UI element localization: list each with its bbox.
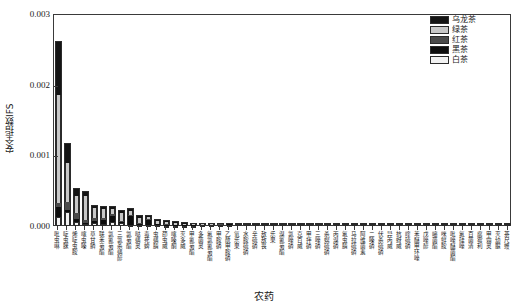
bar-33[interactable]: [351, 223, 358, 225]
y-axis-tick-labels: 0.0000.0010.0020.003: [8, 0, 50, 308]
bar-5[interactable]: [100, 206, 107, 225]
x-tick-label: 甲霜灵: [486, 231, 492, 249]
x-tick-mark: [192, 226, 193, 230]
x-tick-label: 克百威: [297, 231, 303, 249]
x-tick-mark: [345, 226, 346, 230]
bar-41[interactable]: [423, 223, 430, 225]
bar-22[interactable]: [252, 223, 259, 225]
bar-29[interactable]: [315, 223, 322, 225]
bar-1[interactable]: [64, 143, 71, 225]
legend-item-黑茶[interactable]: 黑茶: [430, 45, 476, 54]
bar-segment-黑茶: [128, 216, 133, 225]
bar-9[interactable]: [136, 215, 143, 225]
legend-item-红茶[interactable]: 红茶: [430, 35, 476, 44]
bar-4[interactable]: [91, 205, 98, 225]
x-tick-label: 茚虫威: [162, 231, 168, 249]
legend-item-绿茶[interactable]: 绿茶: [430, 25, 476, 34]
x-tick-mark: [183, 226, 184, 230]
bar-47[interactable]: [477, 223, 484, 225]
x-tick-mark: [255, 226, 256, 230]
x-tick-label: 三氯杀螨醇: [117, 231, 123, 261]
bar-36[interactable]: [378, 223, 385, 225]
x-tick-mark: [309, 226, 310, 230]
y-tick-mark: [54, 156, 58, 157]
bar-stack: [119, 211, 124, 226]
bar-32[interactable]: [342, 223, 349, 225]
bar-50[interactable]: [504, 223, 511, 225]
x-tick-label: 灭幼脲: [495, 231, 501, 249]
bar-2[interactable]: [73, 188, 80, 225]
legend-item-白茶[interactable]: 白茶: [430, 55, 476, 64]
x-tick-label: 苯醚甲环唑: [414, 231, 420, 261]
bar-24[interactable]: [270, 223, 277, 225]
bar-39[interactable]: [405, 223, 412, 225]
x-tick-label: 咪鲜胺: [441, 231, 447, 249]
bar-stack: [83, 192, 88, 226]
bar-stack: [101, 207, 106, 226]
bar-23[interactable]: [261, 223, 268, 225]
bar-7[interactable]: [118, 210, 125, 225]
x-tick-label: 甲拌磷: [306, 231, 312, 249]
bar-44[interactable]: [450, 223, 457, 225]
bar-17[interactable]: [208, 223, 215, 225]
bar-34[interactable]: [360, 223, 367, 225]
legend-swatch: [430, 26, 449, 34]
bar-31[interactable]: [333, 223, 340, 225]
bar-15[interactable]: [190, 223, 197, 225]
bar-28[interactable]: [306, 223, 313, 225]
bar-14[interactable]: [181, 222, 188, 225]
bar-16[interactable]: [199, 223, 206, 225]
x-tick-mark: [120, 226, 121, 230]
bar-48[interactable]: [486, 223, 493, 225]
bar-30[interactable]: [324, 223, 331, 225]
bar-38[interactable]: [396, 223, 403, 225]
x-tick-label: 氯菊酯: [126, 231, 132, 249]
bar-stack: [65, 144, 70, 226]
bar-42[interactable]: [432, 223, 439, 225]
bar-49[interactable]: [495, 223, 502, 225]
x-tick-label: 乐果: [270, 231, 276, 243]
bar-45[interactable]: [459, 223, 466, 225]
bar-27[interactable]: [297, 223, 304, 225]
y-tick-label: 0.003: [10, 10, 50, 19]
x-tick-label: 噻虫嗪: [81, 231, 87, 249]
bar-21[interactable]: [243, 223, 250, 225]
bar-20[interactable]: [235, 223, 242, 225]
x-tick-mark: [273, 226, 274, 230]
bar-10[interactable]: [145, 215, 152, 225]
bar-25[interactable]: [279, 223, 286, 225]
bar-46[interactable]: [468, 223, 475, 225]
x-tick-mark: [417, 226, 418, 230]
bar-segment-乌龙茶: [65, 144, 70, 163]
bar-43[interactable]: [441, 223, 448, 225]
x-tick-label: 乙酰甲胺磷: [225, 231, 231, 261]
x-tick-mark: [480, 226, 481, 230]
x-tick-mark: [381, 226, 382, 230]
x-tick-mark: [318, 226, 319, 230]
y-tick-label: 0.001: [10, 151, 50, 160]
x-tick-mark: [228, 226, 229, 230]
bar-26[interactable]: [288, 223, 295, 225]
x-tick-mark: [507, 226, 508, 230]
x-tick-label: 伏杀硫磷: [378, 231, 384, 255]
bar-6[interactable]: [109, 206, 116, 225]
bar-19[interactable]: [226, 223, 233, 225]
bar-18[interactable]: [217, 223, 224, 225]
bar-13[interactable]: [172, 221, 179, 225]
bar-11[interactable]: [154, 219, 161, 225]
bar-segment-绿茶: [56, 95, 61, 203]
x-tick-mark: [75, 226, 76, 230]
bar-12[interactable]: [163, 220, 170, 225]
x-tick-mark: [291, 226, 292, 230]
bar-0[interactable]: [55, 41, 62, 225]
bar-3[interactable]: [82, 191, 89, 225]
bar-40[interactable]: [414, 223, 421, 225]
bar-8[interactable]: [127, 208, 134, 225]
legend-item-乌龙茶[interactable]: 乌龙茶: [430, 15, 476, 24]
x-tick-mark: [264, 226, 265, 230]
bar-37[interactable]: [387, 223, 394, 225]
x-tick-mark: [246, 226, 247, 230]
bar-35[interactable]: [369, 223, 376, 225]
x-tick-label: 毒死蜱: [144, 231, 150, 249]
x-tick-mark: [471, 226, 472, 230]
